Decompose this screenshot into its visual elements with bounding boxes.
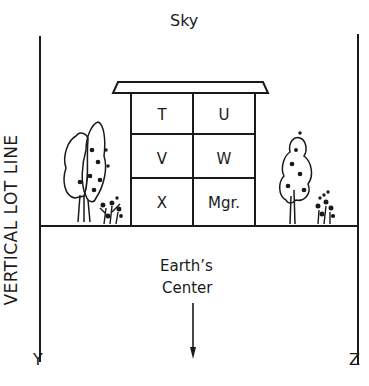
shrub-left-icon xyxy=(100,197,122,224)
room-label: X xyxy=(132,194,192,212)
room-label: V xyxy=(132,150,192,168)
lot-diagram xyxy=(0,0,369,386)
down-arrow-icon xyxy=(190,303,196,359)
vertical-lot-line-label: VERTICAL LOT LINE xyxy=(1,90,21,350)
corner-label-y: Y xyxy=(33,352,43,368)
room-label: T xyxy=(132,106,192,124)
room-label: W xyxy=(194,150,254,168)
room-label: U xyxy=(194,106,254,124)
earth-center-label-line1: Earth’s xyxy=(160,259,213,274)
shrub-right-icon xyxy=(316,191,334,224)
sky-label: Sky xyxy=(170,13,198,29)
vertical-lot-line-text: VERTICAL LOT LINE xyxy=(1,134,21,305)
earth-center-label-line2: Center xyxy=(162,281,213,296)
building-roof xyxy=(113,82,268,93)
corner-label-z: Z xyxy=(349,352,360,368)
room-label: Mgr. xyxy=(194,194,254,212)
tree-right-icon xyxy=(280,132,312,224)
